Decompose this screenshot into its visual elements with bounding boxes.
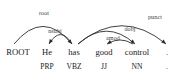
token-word: has	[68, 47, 79, 57]
token-word: good	[95, 47, 112, 57]
token-word: ROOT	[6, 47, 29, 57]
token-word: .	[166, 47, 168, 57]
token-pos-tag: PRP	[40, 62, 54, 71]
token-word: He	[42, 47, 52, 57]
token-word: control	[125, 47, 149, 57]
token-pos-tag: VBZ	[66, 62, 81, 71]
token-pos-tag: JJ	[101, 62, 107, 71]
dependency-parse-figure: rootnsubjpunctdobjamod ROOTHePRPhasVBZgo…	[0, 0, 177, 81]
token-pos-tag: .	[166, 62, 168, 71]
tokens-layer: ROOTHePRPhasVBZgoodJJcontrolNN..	[0, 0, 177, 81]
token-pos-tag: NN	[132, 62, 143, 71]
